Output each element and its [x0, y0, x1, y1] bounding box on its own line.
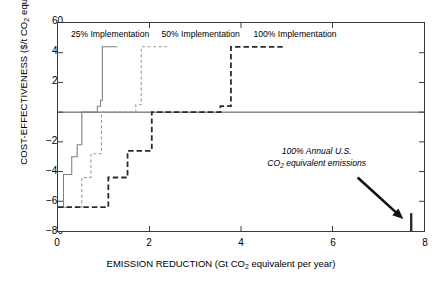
- annotation-line-2-tail: equivalent emissions: [284, 158, 366, 168]
- series-line-0: [58, 47, 117, 207]
- x-tick-label: 2: [134, 238, 164, 248]
- y-axis-title: COST-EFFECTIVENESS ($/t CO2 equivalent): [18, 0, 30, 176]
- series-caption-50: 50% Implementation: [162, 29, 240, 39]
- series-caption-25: 25% Implementation: [71, 29, 149, 39]
- series-caption-100: 100% Implementation: [254, 29, 337, 39]
- x-tick-label: 6: [318, 238, 348, 248]
- annotation-arrow-shaft: [358, 178, 397, 214]
- x-tick-label: 0: [42, 238, 72, 248]
- series-line-2: [58, 47, 284, 207]
- x-axis-title: EMISSION REDUCTION (Gt CO2 equivalent pe…: [0, 258, 442, 270]
- series-line-1: [58, 47, 170, 207]
- x-tick-label: 4: [226, 238, 256, 248]
- annotation-us-emissions: 100% Annual U.S. CO2 equivalent emission…: [267, 146, 366, 170]
- x-tick-label: 8: [410, 238, 440, 248]
- plot-area: 25% Implementation 50% Implementation 10…: [57, 22, 425, 232]
- chart-figure: COST-EFFECTIVENESS ($/t CO2 equivalent) …: [0, 0, 442, 283]
- plot-canvas: [58, 23, 424, 231]
- annotation-line-1: 100% Annual U.S.: [282, 146, 352, 156]
- annotation-line-2-main: CO: [267, 158, 280, 168]
